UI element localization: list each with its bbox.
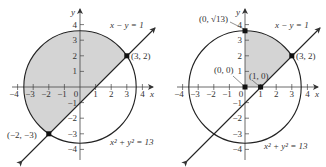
- right-xtick-label: −2: [206, 89, 216, 99]
- left-xtick-label: 4: [140, 89, 145, 99]
- left-ytick-label: −4: [67, 144, 77, 154]
- right-xtick-label: −4: [174, 89, 184, 99]
- left-point-label: (−2, −3): [7, 130, 37, 140]
- left-xtick-label: 2: [109, 89, 114, 99]
- left-point-neg2-neg3: [46, 131, 51, 136]
- left-ytick-label: 2: [73, 51, 78, 61]
- left-xtick-label: −2: [41, 89, 51, 99]
- left-ytick-label: −3: [67, 129, 77, 139]
- left-ytick-label: 3: [73, 35, 78, 45]
- right-point-1-0: [258, 85, 263, 90]
- right-ytick-label: −1: [232, 98, 242, 108]
- left-point-3-2: [124, 53, 129, 58]
- right-point-0-sqrt13: [243, 28, 248, 33]
- left-ytick-label: 4: [73, 20, 78, 30]
- leader-line: [233, 76, 244, 86]
- right-ytick-label: 3: [238, 35, 243, 45]
- right-ytick-label: 1: [238, 66, 243, 76]
- right-ytick-label: −4: [232, 144, 242, 154]
- right-point-label: (0, 0): [214, 65, 234, 75]
- right-point-label: (0, √13): [199, 14, 228, 24]
- right-xtick-label: 3: [290, 89, 295, 99]
- left-point-label: (3, 2): [131, 51, 151, 61]
- left-xtick-label: −3: [25, 89, 35, 99]
- left-ytick-label: −1: [67, 98, 77, 108]
- right-line-label: x − y = 1: [274, 20, 309, 30]
- right-point-label: (3, 2): [296, 51, 316, 61]
- right-xtick-label: −3: [190, 89, 200, 99]
- right-xtick-label: −1: [222, 89, 232, 99]
- right-ytick-label: −3: [232, 129, 242, 139]
- left-circle-label: x² + y² = 13: [109, 137, 154, 147]
- left-xtick-label: −4: [9, 89, 19, 99]
- left-xtick-label: 3: [125, 89, 130, 99]
- right-y-axis-label: y: [235, 7, 240, 17]
- right-circle-label: x² + y² = 13: [263, 141, 308, 151]
- right-xtick-label: 4: [305, 89, 310, 99]
- right-graph: −4 −3 −2 −1 0 1 2 3 4 4 3 2 1 −1 −2 −3 −…: [174, 7, 320, 161]
- left-y-axis-label: y: [70, 7, 75, 17]
- left-xtick-label: −1: [57, 89, 67, 99]
- left-graph: −4 −3 −2 −1 0 1 2 3 4 4 3 2 1 −1 −2 −3 −…: [7, 7, 155, 161]
- right-xtick-label: 1: [258, 89, 263, 99]
- left-ytick-label: 1: [73, 66, 78, 76]
- right-point-3-2: [289, 53, 294, 58]
- right-x-axis-label: x: [314, 89, 319, 99]
- left-line-label: x − y = 1: [109, 20, 144, 30]
- right-xtick-label: 2: [274, 89, 279, 99]
- right-point-label: (1, 0): [249, 71, 269, 81]
- right-ytick-label: 2: [238, 51, 243, 61]
- right-point-0-0: [243, 85, 248, 90]
- left-x-axis-label: x: [149, 89, 154, 99]
- left-xtick-label: 1: [93, 89, 98, 99]
